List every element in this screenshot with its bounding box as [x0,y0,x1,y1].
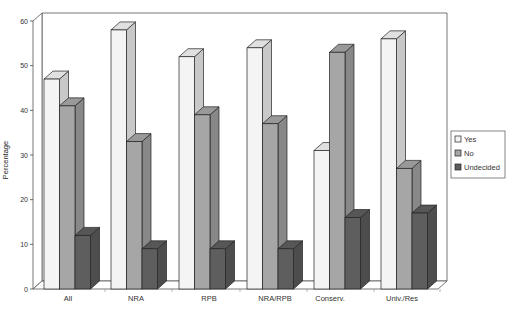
x-tick-label: All [64,294,73,303]
bar-chart: 0102030405060 AllNRARPBNRA/RPBConserv.Un… [0,0,509,310]
bar [210,241,235,289]
bar [412,205,437,289]
y-axis: 0102030405060 [20,18,33,293]
x-tick-label: NRA/RPB [258,294,291,303]
legend-swatch [455,164,461,170]
x-tick-label: Univ./Res [386,294,418,303]
bar [345,210,370,289]
legend-label: No [464,149,474,158]
y-tick-label: 10 [20,241,28,248]
y-tick-label: 40 [20,107,28,114]
legend-swatch [455,150,461,156]
x-tick-label: Conserv. [315,294,344,303]
y-tick-label: 30 [20,152,28,159]
y-axis-title: Percentage [1,141,10,179]
x-tick-label: RPB [201,294,216,303]
legend: YesNoUndecided [451,131,505,178]
bar [75,227,100,289]
y-tick-label: 60 [20,18,28,25]
x-tick-label: NRA [128,294,144,303]
side-wall [33,13,42,289]
bar [278,241,303,289]
y-tick-label: 0 [24,286,28,293]
bar [142,241,167,289]
x-axis: AllNRARPBNRA/RPBConserv.Univ./Res [64,289,440,303]
legend-label: Yes [464,135,476,144]
y-tick-label: 20 [20,196,28,203]
legend-label: Undecided [464,163,500,172]
legend-swatch [455,136,461,142]
y-tick-label: 50 [20,62,28,69]
